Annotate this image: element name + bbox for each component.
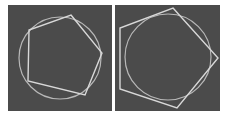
inscribed-circle <box>125 14 211 100</box>
circumscribed-pentagon-diagram <box>115 5 220 111</box>
circumscribed-pentagon-panel <box>115 5 220 111</box>
inscribed-pentagon-panel <box>8 5 112 111</box>
inscribed-pentagon-diagram <box>8 5 112 111</box>
circumscribed-pentagon <box>120 8 218 108</box>
inscribed-pentagon <box>28 15 102 95</box>
